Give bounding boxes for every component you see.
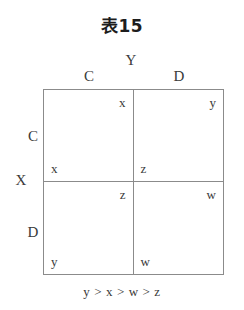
matrix-cell-dc: z y: [44, 182, 134, 274]
figure-container: 表15 Y X C D C D x x y z z y w w y > x > …: [0, 0, 244, 310]
figure-caption: y > x > w > z: [0, 284, 244, 300]
cell-dd-column-payoff: w: [207, 188, 216, 201]
cell-dd-row-payoff: w: [141, 255, 150, 268]
figure-title: 表15: [0, 12, 244, 37]
column-header-c: C: [78, 68, 100, 85]
row-header-c: C: [22, 128, 44, 145]
cell-cc-column-payoff: x: [119, 96, 126, 109]
cell-cd-row-payoff: z: [141, 162, 147, 175]
cell-cd-column-payoff: y: [210, 96, 217, 109]
row-player-axis-label: X: [10, 172, 32, 189]
row-header-d: D: [22, 224, 44, 241]
cell-dc-row-payoff: y: [51, 255, 58, 268]
matrix-cell-dd: w w: [134, 182, 224, 274]
cell-dc-column-payoff: z: [120, 188, 126, 201]
matrix-cell-cc: x x: [44, 90, 134, 182]
column-player-axis-label: Y: [121, 52, 141, 69]
cell-cc-row-payoff: x: [51, 162, 58, 175]
payoff-matrix: x x y z z y w w: [43, 89, 224, 275]
column-header-d: D: [168, 68, 190, 85]
matrix-cell-cd: y z: [134, 90, 224, 182]
